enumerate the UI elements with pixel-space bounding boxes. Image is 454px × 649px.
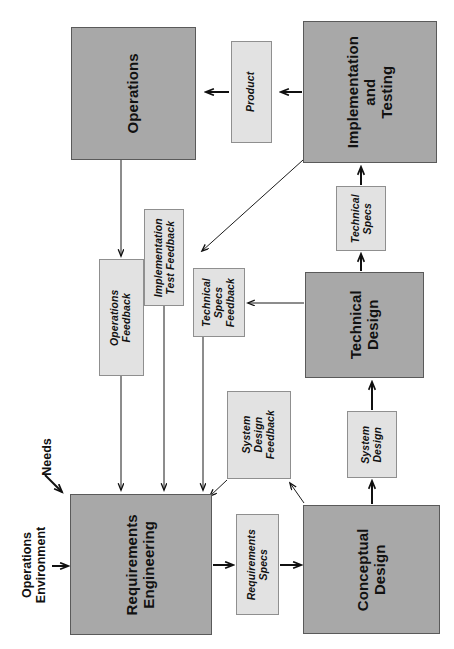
artifact-box-technical-specs[interactable]: Technical Specs — [336, 186, 386, 251]
artifact-box-implementation-test-feedback[interactable]: Implementation Test Feedback — [144, 209, 184, 306]
artifact-box-system-design-feedback[interactable]: System Design Feedback — [227, 391, 291, 479]
process-label-technical-design: Technical Design — [348, 291, 382, 360]
requirements-engineering-line-2: Engineering — [141, 514, 158, 615]
technical-design-line-2: Design — [364, 291, 381, 360]
technical-specs-feedback-line-3: Feedback — [225, 278, 237, 327]
artifact-label-product: Product — [246, 72, 258, 112]
external-input-label-operations-environment: Operations Environment — [20, 527, 48, 603]
process-box-operations[interactable]: Operations — [71, 27, 196, 160]
process-label-implementation-testing: Implementation and Testing — [345, 36, 395, 148]
artifact-box-operations-feedback[interactable]: Operations Feedback — [99, 259, 144, 376]
requirements-specs-line-1: Requirements — [246, 529, 258, 600]
system-design-line-1: System — [360, 426, 372, 464]
artifact-label-requirements-specs: Requirements Specs — [246, 529, 270, 600]
flow-system-design-feedback-to-requirements — [210, 480, 227, 496]
artifact-label-technical-specs-feedback: Technical Specs Feedback — [201, 278, 236, 327]
process-box-conceptual-design[interactable]: Conceptual Design — [303, 505, 440, 634]
technical-specs-line-1: Technical — [349, 194, 361, 243]
diagram-canvas: Operations Implementation and Testing Te… — [0, 0, 454, 649]
conceptual-design-line-2: Design — [372, 528, 389, 611]
implementation-line-2: and — [362, 36, 379, 148]
operations-environment-line-1: Operations — [20, 527, 34, 603]
external-input-label-needs: Needs — [40, 438, 54, 476]
artifact-label-technical-specs: Technical Specs — [349, 194, 373, 243]
process-label-requirements-engineering: Requirements Engineering — [124, 514, 158, 615]
technical-specs-line-2: Specs — [361, 194, 373, 243]
external-input-operations-environment: Operations Environment — [0, 524, 82, 606]
flow-implementation-to-test-feedback — [202, 160, 303, 251]
process-label-conceptual-design: Conceptual Design — [355, 528, 389, 611]
artifact-box-product[interactable]: Product — [231, 41, 272, 143]
requirements-specs-line-2: Specs — [258, 529, 270, 600]
external-input-needs: Needs — [19, 436, 75, 478]
process-label-operations: Operations — [125, 53, 142, 133]
artifact-box-requirements-specs[interactable]: Requirements Specs — [236, 514, 279, 615]
artifact-label-system-design-feedback: System Design Feedback — [241, 410, 276, 459]
artifact-label-system-design: System Design — [360, 426, 384, 464]
artifact-box-system-design[interactable]: System Design — [347, 411, 397, 478]
operations-feedback-line-2: Feedback — [122, 289, 134, 345]
system-design-line-2: Design — [372, 426, 384, 464]
process-box-requirements-engineering[interactable]: Requirements Engineering — [70, 494, 212, 635]
artifact-label-implementation-test-feedback: Implementation Test Feedback — [152, 218, 176, 297]
implementation-line-1: Implementation — [345, 36, 362, 148]
technical-design-line-1: Technical — [348, 291, 365, 360]
conceptual-design-line-1: Conceptual — [355, 528, 372, 611]
flow-conceptual-to-system-design-feedback — [290, 483, 304, 503]
implementation-line-3: Testing — [378, 36, 395, 148]
operations-environment-line-2: Environment — [34, 527, 48, 603]
artifact-box-technical-specs-feedback[interactable]: Technical Specs Feedback — [193, 268, 245, 337]
process-box-implementation-testing[interactable]: Implementation and Testing — [303, 21, 437, 163]
system-design-feedback-line-3: Feedback — [265, 410, 277, 459]
implementation-test-feedback-line-1: Implementation — [152, 218, 164, 297]
artifact-label-operations-feedback: Operations Feedback — [110, 289, 134, 345]
requirements-engineering-line-1: Requirements — [124, 514, 141, 615]
implementation-test-feedback-line-2: Test Feedback — [164, 218, 176, 297]
process-box-technical-design[interactable]: Technical Design — [305, 272, 424, 378]
